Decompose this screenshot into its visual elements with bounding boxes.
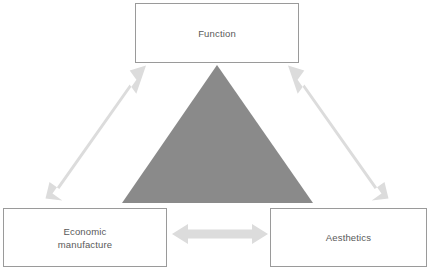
node-aesthetics[interactable]: Aesthetics bbox=[270, 208, 427, 267]
connector-function-economic bbox=[46, 66, 147, 201]
node-economic-manufacture[interactable]: Economic manufacture bbox=[3, 208, 167, 267]
connector-function-aesthetics bbox=[288, 66, 389, 201]
connector-economic-aesthetics bbox=[172, 224, 268, 244]
node-function[interactable]: Function bbox=[135, 3, 299, 63]
node-economic-manufacture-label: Economic manufacture bbox=[58, 225, 112, 251]
node-aesthetics-label: Aesthetics bbox=[326, 231, 371, 244]
center-triangle bbox=[122, 65, 313, 203]
diagram-canvas: Function Economic manufacture Aesthetics bbox=[0, 0, 434, 273]
node-function-label: Function bbox=[198, 27, 236, 40]
